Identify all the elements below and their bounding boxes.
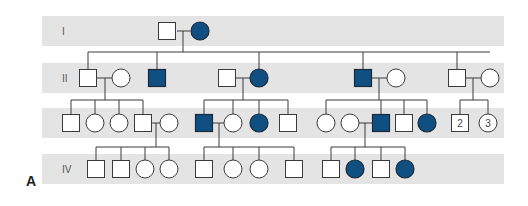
relationship-lines — [71, 31, 490, 161]
male-unaffected-symbol — [280, 115, 297, 132]
male-unaffected-symbol — [80, 70, 97, 87]
male-unaffected-symbol — [219, 70, 236, 87]
female-unaffected-symbol — [86, 114, 104, 132]
male-unaffected-symbol — [113, 161, 130, 178]
generation-label: I — [62, 26, 65, 37]
male-unaffected-symbol — [159, 23, 176, 40]
male-unaffected-symbol — [135, 115, 152, 132]
female-unaffected-symbol — [110, 114, 128, 132]
male-unaffected-symbol — [88, 161, 105, 178]
female-unaffected-symbol — [136, 160, 154, 178]
male-unaffected-symbol — [63, 115, 80, 132]
male-unaffected-symbol — [449, 70, 466, 87]
female-unaffected-symbol — [250, 160, 268, 178]
male-unaffected-symbol — [196, 161, 213, 178]
female-unaffected-symbol — [160, 160, 178, 178]
male-affected-symbol — [149, 70, 166, 87]
male-affected-symbol — [196, 115, 213, 132]
female-unaffected-symbol: 3 — [479, 114, 497, 132]
female-affected-symbol — [191, 22, 209, 40]
male-unaffected-symbol — [286, 161, 303, 178]
female-unaffected-symbol — [341, 114, 359, 132]
male-affected-symbol — [373, 115, 390, 132]
female-affected-symbol — [250, 114, 268, 132]
female-unaffected-symbol — [481, 69, 499, 87]
female-affected-symbol — [346, 160, 364, 178]
female-unaffected-symbol — [317, 114, 335, 132]
female-affected-symbol — [250, 69, 268, 87]
generation-band — [42, 154, 504, 184]
panel-label: A — [26, 173, 36, 189]
female-unaffected-symbol — [224, 114, 242, 132]
male-unaffected-symbol — [373, 161, 390, 178]
female-unaffected-symbol — [224, 160, 242, 178]
generation-label: II — [62, 73, 68, 84]
sibling-count: 3 — [485, 118, 491, 129]
female-unaffected-symbol — [160, 114, 178, 132]
male-affected-symbol — [355, 70, 372, 87]
female-affected-symbol — [396, 160, 414, 178]
male-unaffected-symbol — [396, 115, 413, 132]
male-unaffected-symbol: 2 — [452, 115, 469, 132]
male-unaffected-symbol — [323, 161, 340, 178]
pedigree-diagram: IIIIIIIV 23 A — [0, 0, 528, 206]
sibling-count: 2 — [457, 118, 463, 129]
female-affected-symbol — [418, 114, 436, 132]
generation-label: IV — [62, 164, 72, 175]
female-unaffected-symbol — [112, 69, 130, 87]
generation-band — [42, 16, 504, 46]
female-unaffected-symbol — [387, 69, 405, 87]
